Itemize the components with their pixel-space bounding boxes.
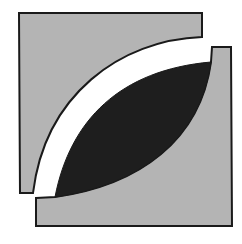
logo: Square emblem of two grey L-like blocks … <box>0 0 242 244</box>
emblem-graphic <box>0 0 242 244</box>
